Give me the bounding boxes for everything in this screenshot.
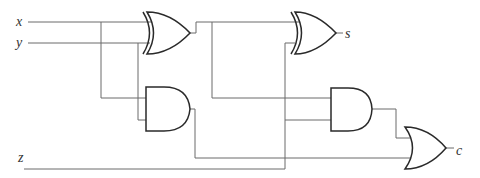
input-label-x: x — [15, 14, 23, 29]
or-gate — [405, 127, 446, 169]
and-gate-1 — [146, 87, 190, 131]
input-label-z: z — [17, 150, 24, 165]
output-label-s: s — [345, 26, 351, 41]
full-adder-diagram: x y z s c — [0, 0, 480, 178]
and-gate-2 — [331, 88, 372, 131]
wire-and1-out — [190, 109, 412, 158]
wire-y — [28, 43, 150, 120]
xor-gate-2 — [291, 12, 336, 54]
wire-and2-out — [372, 109, 410, 138]
wire-x — [28, 22, 151, 98]
xor-gate-1 — [143, 12, 190, 54]
input-label-y: y — [14, 35, 23, 50]
output-label-c: c — [456, 143, 463, 158]
